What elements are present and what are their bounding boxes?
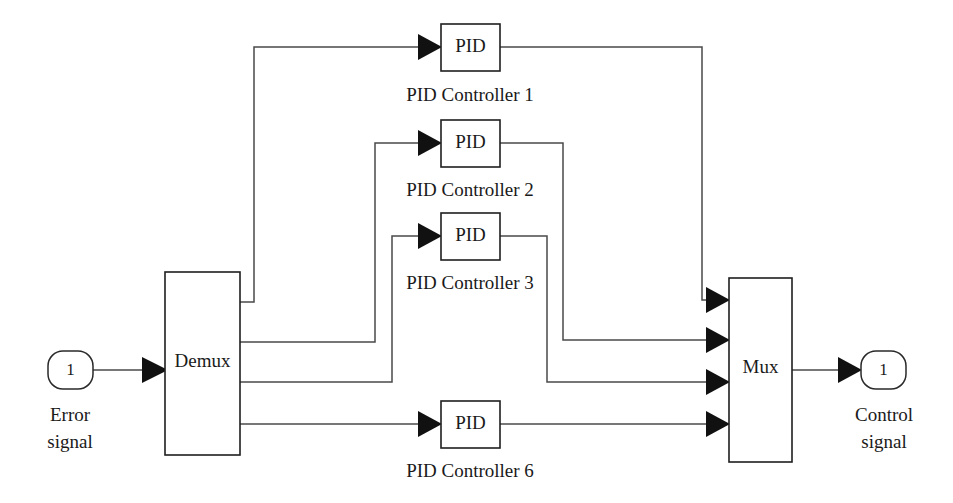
- arrow-head-demux-input: [142, 357, 168, 383]
- output-port-caption-line1: Control: [855, 404, 913, 425]
- wire-demux-out2-to-pid2: [240, 143, 432, 342]
- block-diagram-svg: 1 Error signal Demux PID PID Controller …: [0, 0, 953, 503]
- output-port-number: 1: [879, 360, 888, 379]
- arrow-head-pid1-input: [418, 34, 442, 60]
- wire-pid2-to-mux-in2: [500, 143, 720, 340]
- pid-controller-6-caption: PID Controller 6: [406, 460, 534, 481]
- arrow-head-mux-input3: [706, 369, 730, 395]
- arrow-head-output-port-input: [838, 357, 862, 383]
- pid-controller-2-block-label: PID: [455, 131, 486, 152]
- arrow-head-pid3-input: [418, 223, 442, 249]
- mux-label: Mux: [743, 356, 779, 377]
- arrow-head-pid2-input: [418, 130, 442, 156]
- input-port-caption-line1: Error: [50, 404, 91, 425]
- pid-controller-6-block-label: PID: [455, 412, 486, 433]
- wire-demux-out3-to-pid3: [240, 236, 432, 382]
- arrow-head-mux-input1: [706, 287, 730, 313]
- pid-controller-2-caption: PID Controller 2: [406, 179, 534, 200]
- arrow-head-pid6-input: [418, 411, 442, 437]
- demux-label: Demux: [175, 350, 231, 371]
- input-port-caption-line2: signal: [47, 431, 92, 452]
- arrow-head-mux-input4: [706, 411, 730, 437]
- input-port-number: 1: [66, 360, 75, 379]
- output-port-caption-line2: signal: [861, 431, 906, 452]
- wire-pid3-to-mux-in3: [500, 236, 720, 382]
- pid-controller-3-block-label: PID: [455, 224, 486, 245]
- pid-controller-1-caption: PID Controller 1: [406, 84, 534, 105]
- pid-controller-1-block-label: PID: [455, 35, 486, 56]
- wire-demux-out1-to-pid1: [240, 47, 432, 302]
- block-diagram-canvas: 1 Error signal Demux PID PID Controller …: [0, 0, 953, 503]
- arrow-head-mux-input2: [706, 327, 730, 353]
- pid-controller-3-caption: PID Controller 3: [406, 272, 534, 293]
